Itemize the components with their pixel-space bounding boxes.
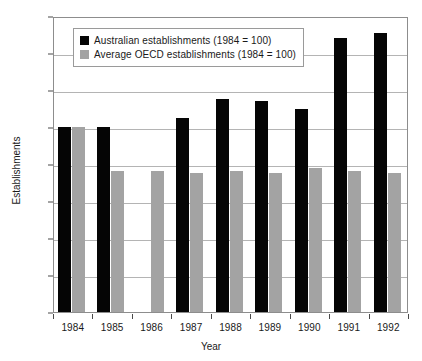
bar-oecd (269, 173, 282, 312)
y-axis-title: Establishments (11, 71, 22, 271)
bar-australian (374, 33, 387, 312)
bar-group (330, 18, 369, 312)
x-tick-mark (211, 314, 212, 319)
bar-oecd (111, 171, 124, 312)
x-tick-label: 1992 (358, 322, 418, 333)
x-tick-mark (408, 314, 409, 319)
bar-australian (334, 38, 347, 312)
x-tick-mark (92, 314, 93, 319)
legend-swatch-icon (80, 36, 89, 45)
bar-australian (176, 118, 189, 312)
bar-oecd (348, 171, 361, 312)
x-tick-mark (53, 314, 54, 319)
x-tick-mark (171, 314, 172, 319)
bar-oecd (72, 127, 85, 312)
bar-oecd (230, 171, 243, 312)
bar-australian (295, 109, 308, 313)
bar-australian (216, 99, 229, 312)
bar-group (370, 18, 409, 312)
x-tick-mark (329, 314, 330, 319)
x-tick-mark (250, 314, 251, 319)
bar-oecd (309, 168, 322, 312)
x-tick-mark (132, 314, 133, 319)
legend-label: Australian establishments (1984 = 100) (94, 35, 272, 46)
bar-oecd (388, 173, 401, 312)
legend-item: Australian establishments (1984 = 100) (80, 33, 296, 47)
bar-australian (255, 101, 268, 312)
bar-chart: Establishments 020406080100120140160 198… (0, 0, 422, 361)
legend-swatch-icon (80, 50, 89, 59)
bar-oecd (151, 171, 164, 312)
chart-legend: Australian establishments (1984 = 100) A… (73, 28, 304, 67)
bar-australian (97, 127, 110, 312)
x-tick-mark (290, 314, 291, 319)
legend-label: Average OECD establishments (1984 = 100) (94, 49, 296, 60)
x-axis-title: Year (0, 341, 422, 352)
bar-oecd (190, 173, 203, 312)
legend-item: Average OECD establishments (1984 = 100) (80, 47, 296, 61)
x-tick-mark (369, 314, 370, 319)
bar-australian (58, 127, 71, 312)
